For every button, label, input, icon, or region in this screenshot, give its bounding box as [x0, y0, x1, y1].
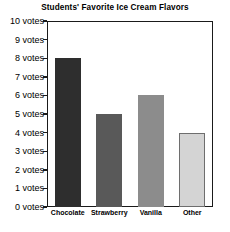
- y-axis-tick: 2 votes: [15, 164, 47, 176]
- x-axis-label-strawberry: Strawberry: [89, 208, 131, 218]
- x-axis-label-vanilla: Vanilla: [130, 208, 172, 218]
- y-axis-tick-label: 10 votes: [10, 15, 47, 27]
- x-axis-label-chocolate: Chocolate: [47, 208, 89, 218]
- bar-vanilla: [138, 95, 164, 207]
- y-axis-tick: 6 votes: [15, 89, 47, 101]
- x-axis: ChocolateStrawberryVanillaOther: [47, 208, 213, 224]
- y-axis-tick: 9 votes: [15, 34, 47, 46]
- y-axis-tick: 0 votes: [15, 201, 47, 213]
- x-axis-label-other: Other: [172, 208, 214, 218]
- y-axis: 10 votes9 votes8 votes7 votes6 votes5 vo…: [0, 0, 47, 232]
- y-axis-tick: 3 votes: [15, 145, 47, 157]
- bars-container: [47, 21, 213, 207]
- y-axis-tick: 1 votes: [15, 182, 47, 194]
- y-axis-tick: 5 votes: [15, 108, 47, 120]
- y-axis-tick: 7 votes: [15, 71, 47, 83]
- y-axis-tick: 10 votes: [10, 15, 47, 27]
- bar-chocolate: [55, 58, 81, 207]
- bar-chart-figure: Students' Favorite Ice Cream Flavors 10 …: [0, 0, 230, 232]
- bar-strawberry: [96, 114, 122, 207]
- y-axis-tick: 8 votes: [15, 52, 47, 64]
- bar-other: [179, 133, 205, 207]
- y-axis-tick: 4 votes: [15, 127, 47, 139]
